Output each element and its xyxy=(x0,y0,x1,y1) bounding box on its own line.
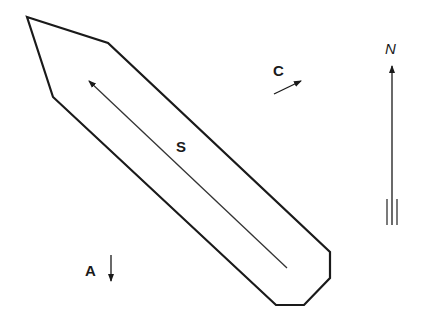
s-label: S xyxy=(176,138,186,155)
a-label: A xyxy=(85,262,96,279)
c-direction-arrow xyxy=(274,81,301,94)
diagram-canvas: S C A N xyxy=(0,0,424,320)
c-label: C xyxy=(273,62,284,79)
north-label: N xyxy=(385,40,396,57)
s-direction-arrow xyxy=(89,81,287,268)
elongated-hull-shape xyxy=(27,17,330,305)
